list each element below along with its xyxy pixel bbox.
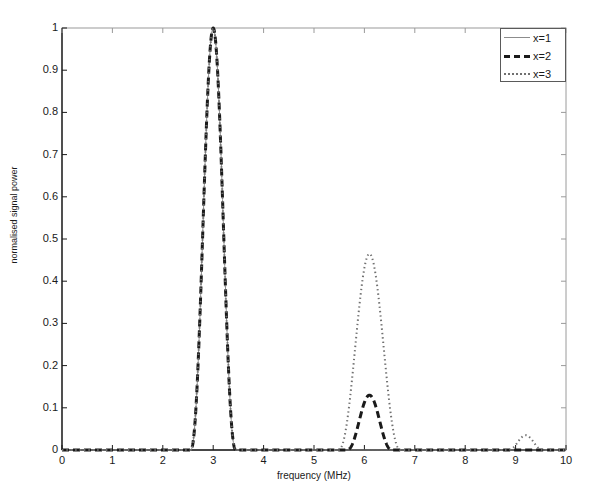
x-tick-label: 5 bbox=[299, 455, 329, 466]
legend-line-sample-solid-icon bbox=[504, 32, 530, 44]
x-tick-label: 8 bbox=[450, 455, 480, 466]
legend-item-x2: x=2 bbox=[501, 47, 565, 65]
x-tick-label: 2 bbox=[148, 455, 178, 466]
legend-item-x1: x=1 bbox=[501, 29, 565, 47]
legend-label-x3: x=3 bbox=[533, 68, 551, 80]
x-tick-label: 6 bbox=[349, 455, 379, 466]
x-tick-label: 0 bbox=[47, 455, 77, 466]
legend-line-sample-dashed-icon bbox=[504, 50, 530, 62]
x-tick-label: 1 bbox=[97, 455, 127, 466]
x-tick-label: 3 bbox=[198, 455, 228, 466]
x-tick-label: 7 bbox=[400, 455, 430, 466]
x-tick-label: 4 bbox=[249, 455, 279, 466]
legend-label-x2: x=2 bbox=[533, 50, 551, 62]
x-tick-label: 10 bbox=[551, 455, 581, 466]
legend-item-x3: x=3 bbox=[501, 65, 565, 83]
x-tick-label: 9 bbox=[501, 455, 531, 466]
y-axis-title-text: normalised signal power bbox=[9, 140, 19, 290]
chart-legend: x=1 x=2 x=3 bbox=[500, 28, 566, 82]
legend-label-x1: x=1 bbox=[533, 32, 551, 44]
figure-canvas: 00.10.20.30.40.50.60.70.80.91 0123456789… bbox=[0, 0, 596, 496]
x-axis-title: frequency (MHz) bbox=[62, 470, 566, 481]
legend-line-sample-dotted-icon bbox=[504, 68, 530, 80]
